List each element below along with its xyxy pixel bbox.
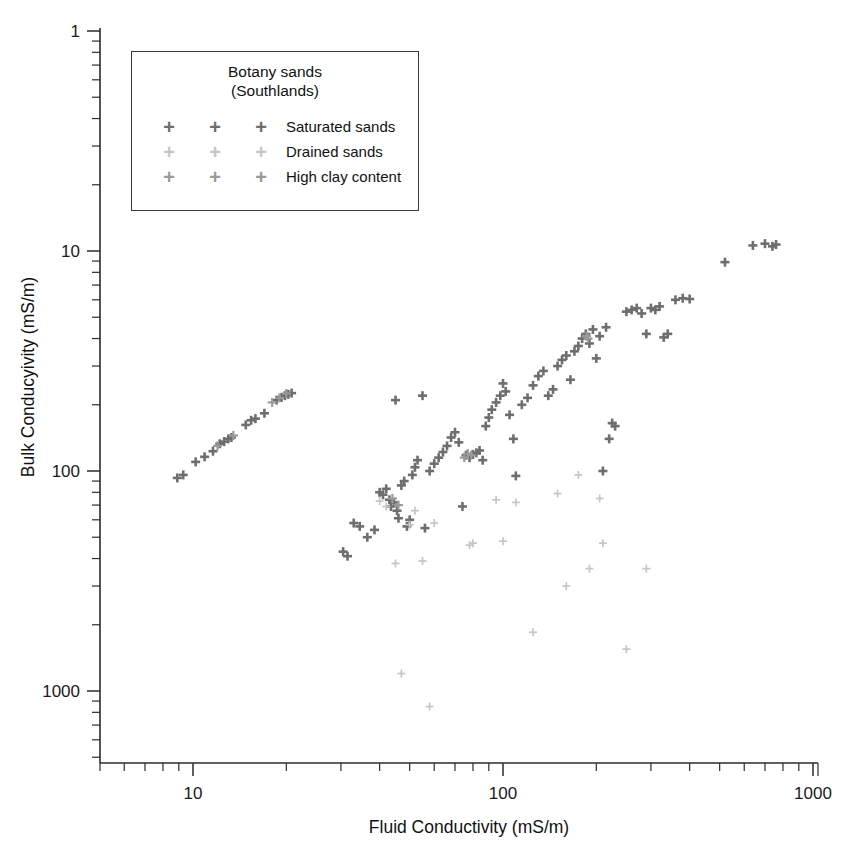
y-axis-title: Bulk Conducyivity (mS/m) [18, 277, 38, 477]
plus-marker-icon: + [238, 142, 284, 162]
legend-rows: +++Saturated sands+++Drained sands+++Hig… [132, 114, 418, 189]
data-point [534, 372, 543, 381]
series-0 [173, 239, 781, 561]
data-point [622, 645, 630, 653]
data-point [595, 332, 604, 341]
data-point [566, 375, 575, 384]
plus-marker-icon: + [238, 167, 284, 187]
data-point [529, 381, 538, 390]
legend-label: Drained sands [286, 143, 383, 160]
data-point [720, 258, 729, 267]
x-tick-label: 1000 [794, 784, 832, 803]
data-point [191, 457, 200, 466]
data-point [241, 420, 250, 429]
data-point [554, 490, 562, 498]
plus-marker-icon: + [146, 167, 192, 187]
data-point [529, 628, 537, 636]
data-point [511, 471, 520, 480]
data-point [627, 305, 636, 314]
plus-marker-icon: + [192, 142, 238, 162]
data-point [505, 410, 514, 419]
x-tick-label: 100 [489, 784, 517, 803]
legend-row[interactable]: +++High clay content [132, 164, 418, 189]
data-point [574, 471, 582, 479]
data-point [632, 304, 641, 313]
legend-title-line2: (Southlands) [132, 81, 418, 100]
plus-marker-icon: + [192, 167, 238, 187]
data-point [642, 565, 650, 573]
legend-label: High clay content [286, 168, 401, 185]
y-tick-label: 100 [52, 462, 80, 481]
y-tick-label: 1000 [42, 682, 80, 701]
data-point [671, 295, 680, 304]
series-2 [213, 332, 592, 510]
scatter-plot-figure: 1101001000101001000 Fluid Conductivity (… [0, 0, 852, 851]
data-point [539, 366, 548, 375]
data-point [397, 670, 405, 678]
data-point [200, 452, 209, 461]
data-point [418, 391, 427, 400]
data-point [499, 379, 508, 388]
x-axis-title: Fluid Conductivity (mS/m) [369, 817, 569, 837]
series-1 [376, 471, 651, 711]
data-point [585, 565, 593, 573]
data-point [420, 524, 429, 533]
data-point [748, 241, 757, 250]
data-point [562, 582, 570, 590]
data-point [430, 519, 438, 527]
data-point [622, 307, 631, 316]
legend-title: Botany sands (Southlands) [132, 52, 418, 100]
data-point [260, 409, 269, 418]
data-point [637, 309, 646, 318]
data-point [642, 329, 651, 338]
data-point [596, 494, 604, 502]
data-point [363, 533, 372, 542]
plus-marker-icon: + [146, 117, 192, 137]
data-point [499, 537, 507, 545]
data-point [492, 496, 500, 504]
data-point [599, 539, 607, 547]
data-point [592, 354, 601, 363]
data-point [602, 323, 611, 332]
data-point [509, 434, 518, 443]
data-point [512, 498, 520, 506]
data-point [481, 422, 490, 431]
data-point [394, 514, 403, 523]
data-point [605, 434, 614, 443]
plus-marker-icon: + [192, 117, 238, 137]
legend-symbols: +++ [146, 167, 286, 187]
plot-canvas: 1101001000101001000 Fluid Conductivity (… [0, 0, 852, 851]
data-point [370, 525, 379, 534]
legend-title-line1: Botany sands [132, 62, 418, 81]
data-point [425, 467, 434, 476]
data-point [598, 467, 607, 476]
data-point [517, 400, 526, 409]
legend-row[interactable]: +++Drained sands [132, 139, 418, 164]
y-tick-label: 10 [61, 242, 80, 261]
y-tick-label: 1 [71, 22, 80, 41]
legend-label: Saturated sands [286, 118, 395, 135]
data-point-group [173, 239, 781, 710]
x-tick-label: 10 [184, 784, 203, 803]
data-point [458, 502, 467, 511]
data-point [523, 393, 532, 402]
data-point [411, 507, 419, 515]
data-point [685, 295, 694, 304]
plus-marker-icon: + [238, 117, 284, 137]
data-point [478, 456, 487, 465]
data-point [484, 413, 493, 422]
data-point [454, 438, 463, 447]
data-point [391, 396, 400, 405]
legend-symbols: +++ [146, 142, 286, 162]
data-point [544, 391, 553, 400]
data-point [419, 557, 427, 565]
plus-marker-icon: + [146, 142, 192, 162]
legend-symbols: +++ [146, 117, 286, 137]
data-point [549, 385, 558, 394]
data-point [208, 447, 217, 456]
legend: Botany sands (Southlands) +++Saturated s… [131, 51, 419, 211]
legend-row[interactable]: +++Saturated sands [132, 114, 418, 139]
data-point [426, 703, 434, 711]
data-point [391, 559, 399, 567]
